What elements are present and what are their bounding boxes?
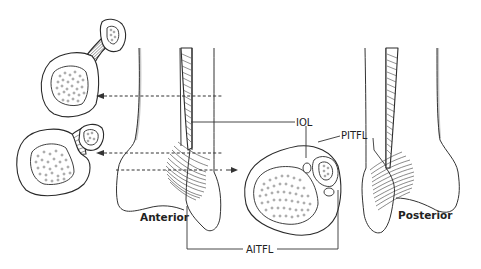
tibia-outline-anterior xyxy=(117,48,185,211)
tibia-lateral-edge-anterior xyxy=(180,48,181,146)
pitfl-leader-posterior xyxy=(373,138,386,166)
fibula-medulla-lower xyxy=(84,130,98,145)
anterior-label: Anterior xyxy=(140,211,190,223)
level-indicators xyxy=(96,93,238,173)
iol-label: IOL xyxy=(296,117,313,128)
vessel-circle-upper xyxy=(303,163,311,173)
tibia-medulla-lower xyxy=(31,144,75,185)
arrow-head-right xyxy=(231,167,238,173)
posterior-label: Posterior xyxy=(398,209,453,221)
anterior-view: Anterior xyxy=(117,48,221,231)
aitfl-label: AITFL xyxy=(246,244,274,255)
pitfl-leader-center xyxy=(318,136,340,142)
posterior-view: Posterior xyxy=(362,48,459,233)
arrow-head-middle xyxy=(96,150,104,156)
vessel-circle-lower xyxy=(324,188,334,196)
interosseous-membrane-posterior xyxy=(386,48,398,168)
fibula-medulla-center xyxy=(319,162,333,180)
interosseous-membrane-anterior xyxy=(181,48,192,150)
diagram-svg: Anterior xyxy=(0,0,481,269)
fibula-medulla-upper xyxy=(107,26,119,44)
cross-section-center xyxy=(245,146,341,236)
aitfl-leader-left xyxy=(187,206,243,249)
cross-section-lower-left xyxy=(17,124,104,195)
cross-section-upper-left xyxy=(41,19,125,117)
tibia-outline-posterior xyxy=(396,48,459,212)
pitfl-fibers-posterior xyxy=(370,152,414,210)
pitfl-label: PITFL xyxy=(341,130,368,141)
syndesmosis-diagram: Anterior xyxy=(0,0,481,269)
tibia-medulla-upper xyxy=(51,66,88,106)
